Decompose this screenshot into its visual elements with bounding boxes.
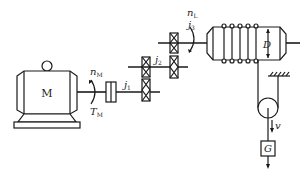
gravity-arrow-icon [266,164,270,169]
coupling [106,82,116,102]
motor-label: M [41,87,52,100]
hoist-diagram: M nM TM j1 j2 nL j3 [0,0,307,171]
motor: M [14,61,80,128]
gear-ratio-j1-label: j1 [122,79,131,91]
drum-diameter-label: D [262,39,271,50]
motor-torque-label: TM [90,106,103,118]
gear-pair-1 [142,57,150,101]
velocity-label: v [275,120,281,131]
gear-ratio-j2-label: j2 [153,54,162,66]
motor-speed-label: nM [90,66,103,78]
drum-speed-label: nL [187,7,197,19]
fixed-support [268,72,290,76]
gear-pair-2 [170,33,178,78]
drum: D [207,24,286,63]
gear-ratio-j3-label: j3 [186,19,195,31]
load-label: G [264,143,272,154]
